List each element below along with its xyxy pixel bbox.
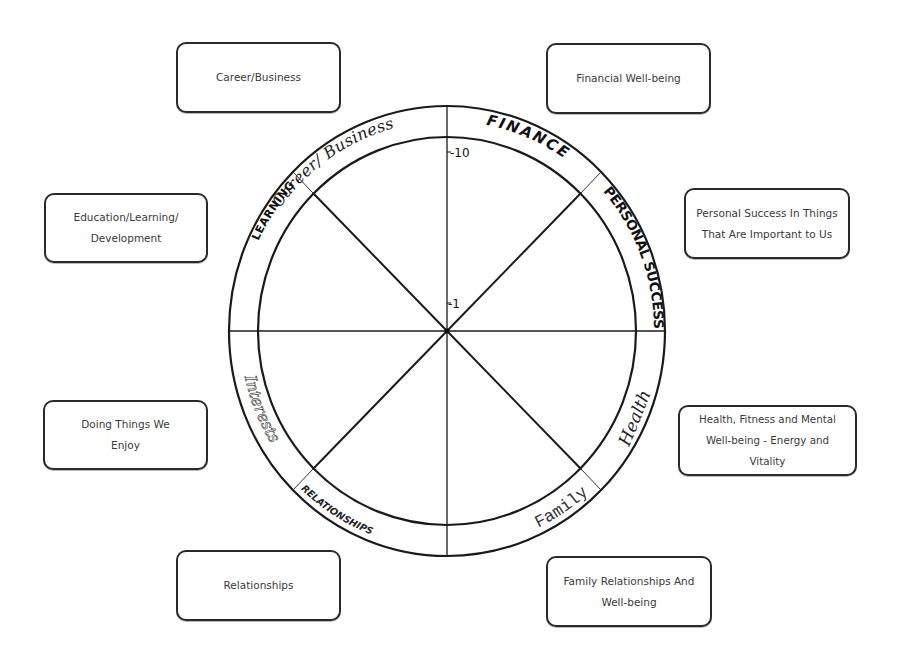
box-health-line-1: Health, Fitness and Mental [688,409,847,430]
segment-label-interests-path: Interests [241,372,285,446]
spoke-diagonal-ne [447,193,581,331]
segment-label-learning: LEARNING [249,178,297,242]
box-health-text: Health, Fitness and Mental Well-being - … [688,409,847,472]
box-family-line-2: Well-being [564,592,695,613]
box-interests-line-1: Doing Things We [81,414,169,435]
box-personal-line-1: Personal Success In Things [696,203,837,224]
box-relationships-line-1: Relationships [224,575,294,596]
box-learning: Education/Learning/ Development [44,193,208,263]
box-finance-text: Financial Well-being [576,68,681,89]
box-family-text: Family Relationships And Well-being [564,571,695,613]
scale-label-min: -1 [448,297,460,311]
spoke-diagonal-se [447,331,581,469]
box-health-line-2: Well-being - Energy and Vitality [688,430,847,472]
spoke-diagonal-sw [313,331,447,469]
box-finance-line-1: Financial Well-being [576,68,681,89]
box-learning-text: Education/Learning/ Development [74,207,179,249]
box-interests: Doing Things We Enjoy [43,400,208,470]
box-learning-line-1: Education/Learning/ [74,207,179,228]
segment-label-relationships-path: RELATIONSHIPS [299,482,374,536]
ring-divider-ne [581,172,601,193]
segment-label-learning-path: LEARNING [249,178,297,242]
wheel-center [445,329,450,334]
scale-label-max: -10 [450,146,470,160]
box-relationships: Relationships [176,550,341,621]
life-wheel: -10 -1 Career/ Business FINANCE PERSONAL… [0,0,898,661]
box-career-line-1: Career/Business [216,67,301,88]
box-finance: Financial Well-being [546,43,711,114]
box-relationships-text: Relationships [224,575,294,596]
box-learning-line-2: Development [74,228,179,249]
box-family: Family Relationships And Well-being [546,556,712,627]
box-personal: Personal Success In Things That Are Impo… [684,188,850,259]
segment-label-interests: Interests [241,372,285,446]
box-personal-line-2: That Are Important to Us [696,224,837,245]
box-family-line-1: Family Relationships And [564,571,695,592]
box-personal-text: Personal Success In Things That Are Impo… [696,203,837,245]
box-health: Health, Fitness and Mental Well-being - … [678,405,857,476]
segment-label-relationships: RELATIONSHIPS [299,482,374,536]
box-career-text: Career/Business [216,67,301,88]
box-interests-text: Doing Things We Enjoy [81,414,169,456]
box-career: Career/Business [176,42,341,113]
segment-label-finance-path: FINANCE [485,111,574,163]
box-interests-line-2: Enjoy [81,435,169,456]
segment-label-finance: FINANCE [485,111,574,163]
ring-divider-se [581,469,601,490]
spoke-diagonal-nw [313,193,447,331]
